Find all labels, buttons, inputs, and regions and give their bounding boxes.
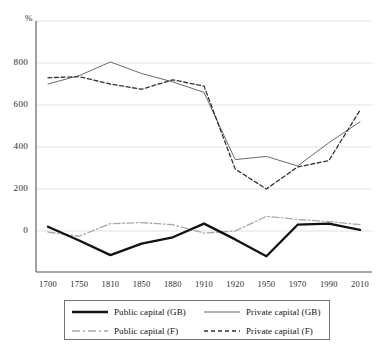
legend-label-private-capital-gb: Private capital (GB) — [246, 307, 320, 317]
legend-swatch-private-capital-gb — [203, 306, 241, 318]
legend-swatch-private-capital-f — [203, 325, 241, 337]
legend-label-public-capital-f: Public capital (F) — [114, 326, 178, 336]
legend-row-bottom: Public capital (F) Private capital (F) — [65, 321, 329, 341]
y-axis-tick-0: 0 — [0, 225, 28, 235]
page-caption-fragment — [6, 345, 381, 353]
axis-lines — [36, 21, 372, 272]
legend-label-public-capital-gb: Public capital (GB) — [114, 307, 186, 317]
legend-label-private-capital-f: Private capital (F) — [246, 326, 313, 336]
legend-entry-public-capital-gb: Public capital (GB) — [65, 302, 197, 322]
legend-entry-public-capital-f: Public capital (F) — [65, 321, 197, 341]
legend-swatch-public-capital-f — [71, 325, 109, 337]
y-axis-tick-600: 600 — [0, 99, 28, 109]
grid-lines — [36, 21, 372, 231]
legend-entry-private-capital-gb: Private capital (GB) — [197, 302, 329, 322]
legend-swatch-public-capital-gb — [71, 306, 109, 318]
series-line-public-capital-gb — [48, 224, 360, 257]
y-axis-tick-800: 800 — [0, 57, 28, 67]
legend-entry-private-capital-f: Private capital (F) — [197, 321, 329, 341]
series-line-public-capital-f — [48, 216, 360, 236]
y-axis-tick-400: 400 — [0, 141, 28, 151]
chart-legend: Public capital (GB) Private capital (GB)… — [64, 300, 330, 340]
legend-row-top: Public capital (GB) Private capital (GB) — [65, 302, 329, 322]
capital-trends-line-chart: % 0200400600800 170017501810185018801910… — [0, 0, 387, 354]
series-line-private-capital-gb — [48, 62, 360, 166]
y-axis-tick-200: 200 — [0, 183, 28, 193]
x-axis-tick-2010: 2010 — [340, 279, 380, 289]
